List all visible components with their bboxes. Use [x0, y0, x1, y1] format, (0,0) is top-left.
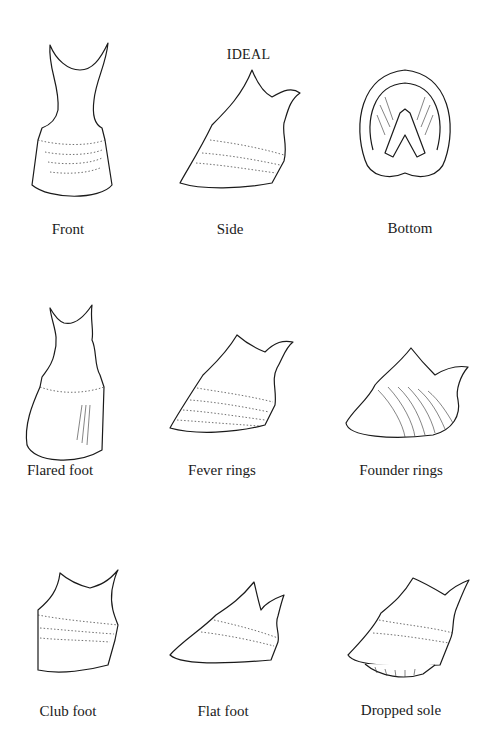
hoof-flat-foot-illustration: [166, 580, 286, 670]
label-bottom: Bottom: [330, 220, 490, 237]
hoof-bottom-illustration: [355, 65, 455, 185]
label-founder-rings: Founder rings: [321, 462, 481, 479]
label-dropped-sole: Dropped sole: [321, 702, 481, 719]
hoof-fever-rings-illustration: [165, 330, 295, 445]
hoof-dropped-sole-illustration: [345, 575, 470, 685]
hoof-founder-rings-illustration: [343, 345, 473, 450]
hoof-club-foot-illustration: [30, 570, 125, 680]
label-flared-foot: Flared foot: [0, 462, 140, 479]
hoof-flared-foot-illustration: [22, 305, 112, 465]
label-front: Front: [0, 221, 148, 238]
label-fever-rings: Fever rings: [142, 462, 302, 479]
label-side: Side: [150, 221, 310, 238]
hoof-side-illustration: [172, 65, 302, 195]
hoof-front-illustration: [20, 40, 120, 200]
label-flat-foot: Flat foot: [143, 703, 303, 720]
label-club-foot: Club foot: [0, 703, 148, 720]
